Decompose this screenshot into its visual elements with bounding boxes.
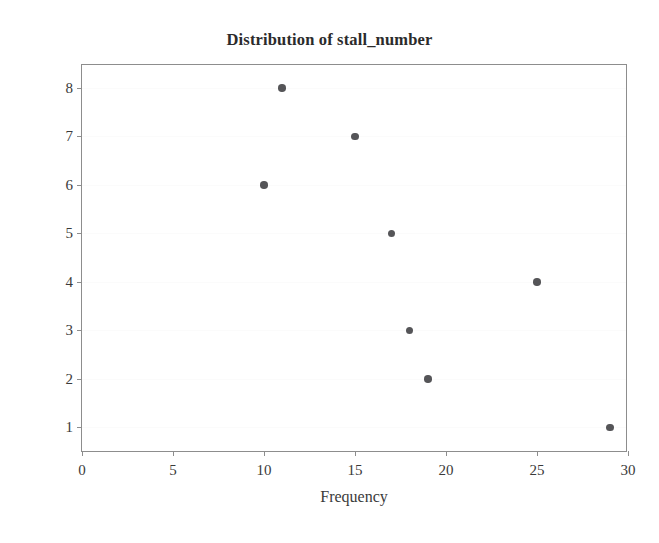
y-tick-mark (77, 379, 82, 380)
chart-title: Distribution of stall_number (0, 30, 659, 50)
y-tick-mark (77, 282, 82, 283)
data-point (606, 424, 614, 432)
y-tick-label: 6 (66, 176, 74, 193)
x-tick-mark (537, 451, 538, 456)
x-tick-label: 0 (78, 462, 86, 479)
y-tick-mark (77, 185, 82, 186)
y-tick-mark (77, 427, 82, 428)
x-tick-mark (264, 451, 265, 456)
plot-area: 12345678 051015202530 (81, 64, 627, 452)
data-point (533, 278, 541, 286)
y-tick-label: 1 (66, 419, 74, 436)
y-tick-label: 3 (66, 322, 74, 339)
x-tick-label: 25 (530, 462, 545, 479)
x-tick-mark (446, 451, 447, 456)
x-tick-label: 30 (621, 462, 636, 479)
data-point (351, 133, 359, 141)
x-tick-mark (628, 451, 629, 456)
y-tick-label: 7 (66, 128, 74, 145)
data-point (278, 84, 286, 92)
data-point (406, 327, 414, 335)
x-tick-label: 5 (169, 462, 177, 479)
x-axis-label: Frequency (81, 488, 627, 506)
data-point (260, 181, 268, 189)
x-tick-label: 20 (439, 462, 454, 479)
x-tick-label: 15 (348, 462, 363, 479)
y-tick-label: 8 (66, 79, 74, 96)
scatter-points (82, 65, 626, 451)
y-tick-mark (77, 88, 82, 89)
y-tick-mark (77, 233, 82, 234)
chart-figure: Distribution of stall_number 12345678 05… (0, 0, 659, 543)
data-point (424, 375, 432, 383)
data-point (388, 230, 396, 238)
x-tick-mark (355, 451, 356, 456)
y-tick-mark (77, 330, 82, 331)
y-tick-label: 5 (66, 225, 74, 242)
y-tick-mark (77, 136, 82, 137)
y-tick-label: 4 (66, 273, 74, 290)
x-tick-label: 10 (257, 462, 272, 479)
x-tick-mark (173, 451, 174, 456)
x-tick-mark (82, 451, 83, 456)
y-tick-label: 2 (66, 370, 74, 387)
